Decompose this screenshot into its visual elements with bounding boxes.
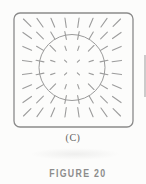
figure-caption-text: FIGURE 20 [50,168,107,179]
radial-dash [65,60,67,62]
radial-dash [65,32,67,40]
radial-dash [89,108,93,117]
radial-dash [113,19,120,26]
figure-caption: FIGURE 20 [0,163,146,181]
radial-dash [51,108,55,117]
radial-dash [89,73,93,74]
radial-dash [23,19,30,26]
scan-artifact-line [144,55,146,97]
radial-dash [37,85,44,89]
radial-dash [65,96,67,104]
radial-dash [37,32,44,39]
radial-dash [78,32,80,40]
radial-dash [112,46,121,50]
radial-dash [78,46,79,50]
radial-dash [36,73,44,75]
radial-dash [113,96,122,102]
radial-dash [37,96,44,103]
radial-dash [22,60,31,61]
radial-dash [89,32,93,39]
radial-dash [101,18,107,27]
radial-dash [113,32,122,38]
radial-dash [50,84,56,90]
radial-dash [88,84,94,90]
radial-dash [37,18,43,27]
radial-dash [65,46,66,50]
radial-dash [78,108,79,117]
radial-dash [23,46,32,50]
radial-dash [23,32,32,38]
radial-dash [23,109,30,116]
radial-dash [101,32,108,39]
radial-dash [113,109,120,116]
radial-dash [89,60,93,61]
radial-dash [112,85,121,89]
circle-outline [39,35,105,101]
radial-dash [51,73,55,74]
radial-dash [65,18,66,27]
radial-dash [78,85,79,89]
radial-dash [112,60,121,61]
radial-dash [22,73,31,74]
radial-dash [77,73,79,75]
radial-dash [78,96,80,104]
radial-dash [89,18,93,27]
radial-dash [65,85,66,89]
radial-dash-diagram [0,0,146,150]
radial-dash [101,85,108,89]
figure-part-label: (C) [0,132,146,143]
radial-dash [100,60,108,62]
radial-dash [101,96,108,103]
radial-dash [51,96,55,103]
radial-dash [65,108,66,117]
radial-dash [100,73,108,75]
radial-dash [50,45,56,51]
radial-dash [51,18,55,27]
radial-dash [65,73,67,75]
radial-dash [23,96,32,102]
radial-dash [88,45,94,51]
radial-dash [101,108,107,117]
radial-dash [51,60,55,61]
radial-dash [78,18,79,27]
radial-dash [89,96,93,103]
radial-dash [112,73,121,74]
radial-dash [36,60,44,62]
radial-dash [77,60,79,62]
figure-panel [0,0,146,150]
radial-dash [37,46,44,50]
radial-dash [23,85,32,89]
radial-dash [51,32,55,39]
radial-dash [37,108,43,117]
radial-dash [101,46,108,50]
